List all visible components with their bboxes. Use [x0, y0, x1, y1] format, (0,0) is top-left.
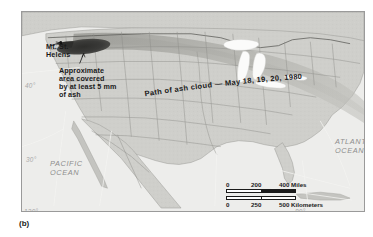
map-scale-bar: 0 200 400 Miles 0 250 500 Kilometers: [226, 181, 318, 209]
graticule-label-lon-90: 90°: [206, 211, 217, 212]
map-frame: Path of ash cloud — May 18, 19, 20, 1980…: [21, 11, 365, 212]
scale-miles-zero: 0: [226, 181, 229, 188]
scale-kilometers-tick-labels: 0 250 500 Kilometers: [226, 201, 318, 209]
scale-bar-miles-fill: [261, 190, 295, 192]
scale-bar-km-midtick: [261, 196, 262, 200]
scale-miles-tick-labels: 0 200 400 Miles: [226, 181, 318, 189]
scale-km-end: 500 Kilometers: [279, 201, 323, 208]
scale-km-zero: 0: [226, 201, 229, 208]
scale-miles-end: 400 Miles: [279, 181, 307, 188]
figure-caption: (b): [19, 219, 29, 228]
scale-bar-miles: [226, 189, 296, 193]
figure-ash-fall-map: Path of ash cloud — May 18, 19, 20, 1980…: [0, 0, 373, 237]
scale-bar-miles-midtick: [261, 189, 262, 193]
scale-miles-mid: 200: [251, 181, 261, 188]
scale-bar-kilometers: [226, 196, 296, 200]
scale-km-mid: 250: [251, 201, 261, 208]
